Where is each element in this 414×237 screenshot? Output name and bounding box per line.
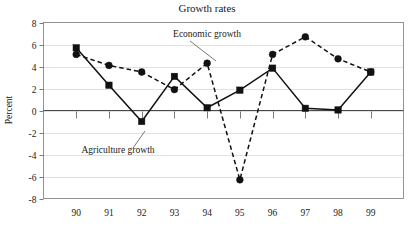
- data-point-marker: [138, 118, 144, 124]
- y-tick-label: -6: [29, 173, 37, 183]
- data-point-marker: [335, 107, 341, 113]
- data-point-marker: [171, 86, 178, 93]
- data-point-marker: [237, 87, 243, 93]
- x-tick-label: 98: [333, 208, 343, 218]
- data-point-marker: [302, 33, 309, 40]
- y-tick-label: 4: [32, 63, 37, 73]
- data-point-marker: [302, 105, 308, 111]
- chart-title: Growth rates: [178, 2, 235, 14]
- x-tick-label: 95: [235, 208, 245, 218]
- x-tick-label: 96: [268, 208, 278, 218]
- x-tick-label: 93: [170, 208, 180, 218]
- y-tick-label: 8: [32, 19, 37, 29]
- data-point-marker: [269, 51, 276, 58]
- data-point-marker: [73, 45, 79, 51]
- y-tick-label: -4: [29, 151, 37, 161]
- y-axis-title: Percent: [4, 95, 14, 124]
- data-point-marker: [269, 65, 275, 71]
- y-tick-label: -2: [29, 129, 37, 139]
- data-point-marker: [204, 60, 211, 67]
- annotation-label: Economic growth: [173, 29, 241, 39]
- data-point-marker: [204, 105, 210, 111]
- data-point-marker: [335, 55, 342, 62]
- y-tick-label: 0: [32, 107, 37, 117]
- data-point-marker: [171, 73, 177, 79]
- data-point-marker: [367, 69, 374, 76]
- data-point-marker: [106, 62, 113, 69]
- x-tick-label: 99: [366, 208, 376, 218]
- y-tick-label: 6: [32, 41, 37, 51]
- data-point-marker: [138, 69, 145, 76]
- growth-rates-chart: Growth rates 86420-2-4-6-8 Percent 90919…: [0, 0, 414, 237]
- y-tick-label: 2: [32, 85, 37, 95]
- data-point-marker: [73, 51, 80, 58]
- annotation-label: Agriculture growth: [81, 145, 154, 155]
- x-tick-label: 91: [104, 208, 114, 218]
- x-tick-label: 94: [202, 208, 212, 218]
- data-point-marker: [236, 176, 243, 183]
- data-point-marker: [106, 82, 112, 88]
- x-tick-label: 92: [137, 208, 147, 218]
- y-tick-label: -8: [29, 195, 37, 205]
- x-tick-label: 97: [301, 208, 311, 218]
- x-tick-label: 90: [71, 208, 81, 218]
- chart-canvas: Growth rates 86420-2-4-6-8 Percent 90919…: [0, 0, 414, 237]
